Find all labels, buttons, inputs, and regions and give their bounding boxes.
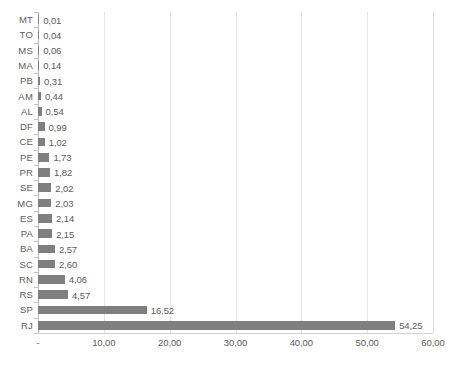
category-label-row: MA <box>0 58 33 73</box>
bar-value-label: 0,01 <box>43 14 61 25</box>
category-tick-mark <box>34 12 38 13</box>
category-label: PR <box>19 167 33 178</box>
bar <box>38 321 395 330</box>
bar-value-label: 0,31 <box>44 75 62 86</box>
bar <box>38 138 45 147</box>
category-label-row: MG <box>0 195 33 210</box>
category-label: SC <box>19 259 33 270</box>
x-axis-line <box>38 333 433 334</box>
chart-title <box>104 0 364 8</box>
bar-row: 2,03 <box>38 195 433 210</box>
bar-row: 0,31 <box>38 73 433 88</box>
category-tick-mark <box>34 43 38 44</box>
category-label-row: DF <box>0 119 33 134</box>
category-label: PB <box>20 75 33 86</box>
value-axis-tick-label: 30,00 <box>224 337 247 348</box>
bar-row: 54,25 <box>38 318 433 333</box>
bar-value-label: 2,14 <box>56 213 74 224</box>
category-tick-mark <box>34 302 38 303</box>
bar-value-label: 4,06 <box>69 274 87 285</box>
bar-row: 2,15 <box>38 226 433 241</box>
category-label: MT <box>19 14 33 25</box>
bar <box>38 92 41 101</box>
bar-row: 0,14 <box>38 58 433 73</box>
bar <box>38 229 52 238</box>
category-label: SP <box>20 304 33 315</box>
category-tick-mark <box>34 211 38 212</box>
category-label: BA <box>20 243 33 254</box>
bar-series: 0,010,040,060,140,310,440,540,991,021,73… <box>38 12 433 333</box>
bar-value-label: 1,73 <box>53 152 71 163</box>
category-tick-mark <box>34 318 38 319</box>
bar <box>38 199 51 208</box>
category-label: PA <box>21 228 33 239</box>
value-axis-tick-label: 10,00 <box>92 337 115 348</box>
category-tick-mark <box>34 333 38 334</box>
category-label-row: CE <box>0 134 33 149</box>
category-label-row: RS <box>0 287 33 302</box>
bar <box>38 290 68 299</box>
bar <box>38 275 65 284</box>
bar-row: 1,02 <box>38 134 433 149</box>
category-label: ES <box>20 213 33 224</box>
category-label-row: RJ <box>0 318 33 333</box>
category-label-row: SP <box>0 302 33 317</box>
bar <box>38 214 52 223</box>
category-label-row: PE <box>0 150 33 165</box>
category-label: RJ <box>21 320 33 331</box>
category-label: MA <box>18 60 33 71</box>
bar <box>38 260 55 269</box>
category-tick-mark <box>34 165 38 166</box>
value-axis-tick-label: - <box>36 337 39 348</box>
bar-value-label: 0,06 <box>43 45 61 56</box>
category-tick-mark <box>34 287 38 288</box>
bar <box>38 61 39 70</box>
bar-row: 0,01 <box>38 12 433 27</box>
category-label: MS <box>18 45 33 56</box>
bar-row: 4,57 <box>38 287 433 302</box>
bar-chart: MTTOMSMAPBAMALDFCEPEPRSEMGESPABASCRNRSSP… <box>0 0 468 370</box>
bar-row: 0,04 <box>38 27 433 42</box>
value-axis-labels: -10,0020,0030,0040,0050,0060,00 <box>0 337 468 351</box>
category-label: TO <box>20 29 33 40</box>
category-tick-mark <box>34 88 38 89</box>
category-label-row: BA <box>0 241 33 256</box>
category-tick-mark <box>34 27 38 28</box>
bar-row: 0,06 <box>38 43 433 58</box>
bar-row: 1,82 <box>38 165 433 180</box>
bar-value-label: 0,44 <box>45 91 63 102</box>
bar-row: 0,54 <box>38 104 433 119</box>
value-axis-tick-label: 60,00 <box>421 337 444 348</box>
bar-row: 0,44 <box>38 88 433 103</box>
bar-value-label: 2,60 <box>59 259 77 270</box>
bar-value-label: 2,02 <box>55 182 73 193</box>
category-label-row: RN <box>0 272 33 287</box>
category-tick-mark <box>34 241 38 242</box>
category-tick-mark <box>34 58 38 59</box>
bar-row: 1,73 <box>38 150 433 165</box>
category-label: SE <box>20 182 33 193</box>
bar-value-label: 0,04 <box>43 29 61 40</box>
category-label: MG <box>17 198 33 209</box>
bar <box>38 46 39 55</box>
category-label-row: AM <box>0 88 33 103</box>
category-label-row: MS <box>0 43 33 58</box>
bar <box>38 31 39 40</box>
bar-row: 0,99 <box>38 119 433 134</box>
category-tick-mark <box>34 257 38 258</box>
category-label-row: MT <box>0 12 33 27</box>
category-label: AM <box>18 91 33 102</box>
bar-value-label: 16,52 <box>151 304 174 315</box>
category-tick-mark <box>34 195 38 196</box>
value-axis-tick-label: 50,00 <box>356 337 379 348</box>
bar <box>38 122 45 131</box>
category-tick-mark <box>34 272 38 273</box>
bar-row: 2,02 <box>38 180 433 195</box>
category-label-row: AL <box>0 104 33 119</box>
bar-value-label: 1,82 <box>54 167 72 178</box>
bar-value-label: 2,15 <box>56 228 74 239</box>
category-label: RS <box>19 289 33 300</box>
category-label: CE <box>19 136 33 147</box>
category-label: DF <box>20 121 33 132</box>
category-tick-mark <box>34 226 38 227</box>
